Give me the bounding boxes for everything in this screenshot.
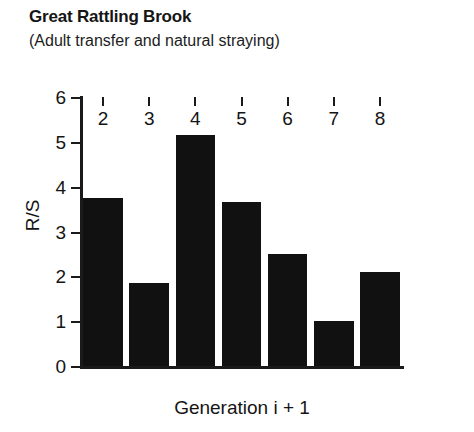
y-axis-tick-label: 5 <box>55 132 66 151</box>
chart-subtitle: (Adult transfer and natural straying) <box>29 30 459 52</box>
y-axis-tick-mark <box>71 232 80 234</box>
x-axis-tick-mark <box>287 97 289 106</box>
y-axis-tick-mark <box>71 276 80 278</box>
x-axis-tick-label: 8 <box>375 109 386 128</box>
bar <box>222 202 262 366</box>
y-axis-tick-label: 1 <box>55 312 66 331</box>
y-axis-tick-mark <box>71 321 80 323</box>
y-axis-tick-mark <box>71 366 80 368</box>
y-axis-tick-label: 2 <box>55 267 66 286</box>
plot-area: 0123456 2345678 <box>80 97 403 366</box>
bar <box>83 198 123 366</box>
x-axis-tick-mark <box>148 97 150 106</box>
x-axis-tick-mark <box>333 97 335 106</box>
chart-title: Great Rattling Brook <box>29 6 459 28</box>
y-axis-tick-label: 0 <box>55 357 66 376</box>
y-axis-tick-mark <box>71 142 80 144</box>
x-axis-tick-label: 6 <box>282 109 293 128</box>
x-axis-tick-mark <box>194 97 196 106</box>
bar <box>314 321 354 366</box>
x-axis-tick-mark <box>241 97 243 106</box>
x-axis-tick-label: 5 <box>236 109 247 128</box>
y-axis-tick-mark <box>71 97 80 99</box>
chart-header: Great Rattling Brook (Adult transfer and… <box>29 6 459 52</box>
y-axis-tick-label: 3 <box>55 222 66 241</box>
x-axis-tick-mark <box>379 97 381 106</box>
x-axis-tick-label: 3 <box>144 109 155 128</box>
bar <box>129 283 169 366</box>
y-axis-title: R/S <box>23 200 42 232</box>
y-axis-tick-label: 6 <box>55 88 66 107</box>
y-axis-tick-label: 4 <box>55 177 66 196</box>
x-axis-tick-label: 4 <box>190 109 201 128</box>
y-axis-tick-mark <box>71 187 80 189</box>
bar <box>176 135 216 366</box>
x-axis-line <box>80 366 404 369</box>
x-axis-title: Generation i + 1 <box>80 398 404 417</box>
x-axis-tick-mark <box>102 97 104 106</box>
bar <box>360 272 400 366</box>
bar <box>268 254 308 366</box>
chart-figure: Great Rattling Brook (Adult transfer and… <box>0 0 474 432</box>
x-axis-tick-label: 2 <box>98 109 109 128</box>
x-axis-tick-label: 7 <box>328 109 339 128</box>
